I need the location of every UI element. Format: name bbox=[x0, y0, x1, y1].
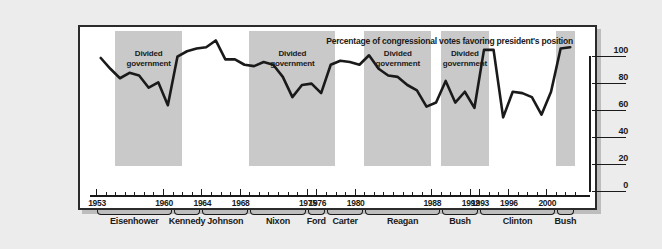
chart-title: Percentage of congressional votes favori… bbox=[326, 36, 573, 46]
x-axis-tick bbox=[326, 192, 327, 195]
year-label: 1964 bbox=[194, 198, 212, 208]
president-label: Bush bbox=[449, 216, 471, 226]
x-axis-tick bbox=[383, 192, 384, 195]
x-axis-tick bbox=[431, 189, 432, 195]
y-axis-tick-rule bbox=[592, 110, 626, 111]
president-label: Eisenhower bbox=[110, 216, 159, 226]
y-axis-tick-rule bbox=[592, 56, 626, 57]
x-axis-tick bbox=[470, 189, 471, 195]
x-axis-tick bbox=[345, 192, 346, 195]
plot-area: DividedgovernmentDividedgovernmentDivide… bbox=[96, 31, 575, 166]
x-axis-tick bbox=[125, 192, 126, 195]
x-axis-line bbox=[90, 195, 590, 197]
year-label: 1980 bbox=[347, 198, 365, 208]
y-axis-spine bbox=[589, 56, 591, 192]
x-axis-tick bbox=[403, 192, 404, 195]
year-label: 1960 bbox=[155, 198, 173, 208]
x-axis-tick bbox=[441, 192, 442, 195]
x-axis-tick bbox=[211, 192, 212, 195]
x-axis-tick bbox=[364, 192, 365, 195]
y-axis-tick-rule bbox=[592, 191, 626, 192]
president-label: Ford bbox=[307, 216, 326, 226]
y-axis-tick-rule bbox=[592, 137, 626, 138]
x-axis-tick bbox=[96, 189, 97, 195]
x-axis-tick bbox=[134, 192, 135, 195]
x-axis-tick bbox=[518, 192, 519, 195]
x-axis-tick bbox=[144, 192, 145, 195]
x-axis-tick bbox=[460, 192, 461, 195]
x-axis-tick bbox=[498, 192, 499, 195]
president-bracket bbox=[480, 210, 555, 215]
x-axis-tick bbox=[288, 192, 289, 195]
x-axis-tick bbox=[115, 192, 116, 195]
figure-page: DividedgovernmentDividedgovernmentDivide… bbox=[0, 0, 662, 249]
president-bracket bbox=[202, 210, 248, 215]
year-label: 2000 bbox=[538, 198, 556, 208]
x-axis-tick bbox=[412, 192, 413, 195]
year-label: 1996 bbox=[500, 198, 518, 208]
x-axis-tick bbox=[316, 189, 317, 195]
president-label: Reagan bbox=[387, 216, 418, 226]
chart-figure: DividedgovernmentDividedgovernmentDivide… bbox=[78, 25, 597, 210]
x-axis-tick bbox=[240, 189, 241, 195]
president-label: Johnson bbox=[207, 216, 243, 226]
president-bracket bbox=[174, 210, 201, 215]
x-axis-tick bbox=[201, 189, 202, 195]
year-label: 1968 bbox=[232, 198, 250, 208]
year-label: 1988 bbox=[423, 198, 441, 208]
x-axis-tick bbox=[489, 192, 490, 195]
y-axis-tick-label: 80 bbox=[618, 72, 628, 82]
x-axis-tick bbox=[393, 192, 394, 195]
x-axis-tick bbox=[173, 192, 174, 195]
y-axis: 020406080100 bbox=[592, 56, 632, 191]
x-axis-tick bbox=[546, 189, 547, 195]
president-bracket bbox=[327, 210, 363, 215]
x-axis-tick bbox=[537, 192, 538, 195]
president-label: Carter bbox=[332, 216, 357, 226]
x-axis-tick bbox=[527, 192, 528, 195]
x-axis-tick bbox=[479, 189, 480, 195]
x-axis-tick bbox=[422, 192, 423, 195]
x-axis-tick bbox=[575, 192, 576, 195]
president-label: Clinton bbox=[503, 216, 533, 226]
vote-percentage-line bbox=[96, 31, 575, 166]
president-label: Bush bbox=[555, 216, 577, 226]
year-label: 1976 bbox=[308, 198, 326, 208]
y-axis-tick-label: 20 bbox=[618, 153, 628, 163]
x-axis-tick bbox=[221, 192, 222, 195]
x-axis-tick bbox=[450, 192, 451, 195]
x-axis-tick bbox=[508, 189, 509, 195]
x-axis-tick bbox=[259, 192, 260, 195]
y-axis-tick-label: 40 bbox=[618, 126, 628, 136]
x-axis-tick bbox=[182, 192, 183, 195]
x-axis-tick bbox=[278, 192, 279, 195]
x-axis-tick bbox=[192, 192, 193, 195]
x-axis-tick bbox=[307, 189, 308, 195]
president-bracket bbox=[97, 210, 172, 215]
x-axis-tick bbox=[249, 192, 250, 195]
president-label: Kennedy bbox=[169, 216, 206, 226]
president-bracket bbox=[308, 210, 325, 215]
year-label: 1953 bbox=[88, 198, 106, 208]
president-bracket bbox=[442, 210, 478, 215]
x-axis-tick bbox=[355, 189, 356, 195]
x-axis-tick bbox=[556, 192, 557, 195]
x-axis-tick bbox=[268, 192, 269, 195]
x-axis-tick bbox=[230, 192, 231, 195]
x-axis-tick bbox=[336, 192, 337, 195]
x-axis-tick bbox=[106, 192, 107, 195]
president-bracket bbox=[365, 210, 440, 215]
y-axis-tick-label: 0 bbox=[623, 180, 628, 190]
x-axis-tick bbox=[163, 189, 164, 195]
y-axis-tick-label: 60 bbox=[618, 99, 628, 109]
x-axis-tick bbox=[565, 192, 566, 195]
x-axis-tick bbox=[374, 192, 375, 195]
president-label: Nixon bbox=[266, 216, 290, 226]
president-bracket bbox=[557, 210, 574, 215]
y-axis-tick-rule bbox=[592, 83, 626, 84]
year-label: 1993 bbox=[471, 198, 489, 208]
y-axis-tick-label: 100 bbox=[614, 45, 628, 55]
x-axis-tick bbox=[297, 192, 298, 195]
x-axis-tick bbox=[153, 192, 154, 195]
y-axis-tick-rule bbox=[592, 164, 626, 165]
